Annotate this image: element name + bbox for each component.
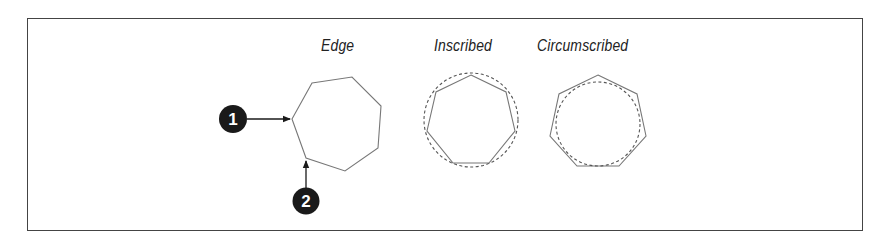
callout-1: 1	[219, 105, 290, 133]
inscribed-heptagon	[427, 75, 515, 163]
circumscribed-diagram	[550, 75, 646, 166]
callout-1-number: 1	[228, 110, 237, 129]
inscribed-diagram	[424, 73, 518, 167]
circumscribed-circle	[556, 82, 640, 166]
circumscribed-heptagon	[550, 75, 646, 166]
callout-2-number: 2	[301, 192, 310, 211]
callout-2: 2	[293, 161, 320, 215]
edge-heptagon	[292, 77, 381, 171]
inscribed-circle	[424, 73, 518, 167]
